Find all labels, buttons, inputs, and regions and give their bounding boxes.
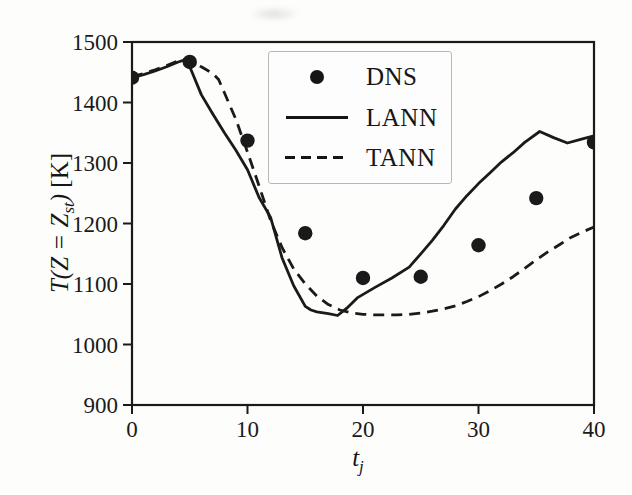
y-tick-label: 1500 bbox=[72, 30, 118, 55]
x-axis-title: tj bbox=[352, 445, 364, 475]
y-axis-title: T(Z = Zst) [K] bbox=[47, 153, 77, 293]
dns-point bbox=[414, 270, 428, 284]
legend-swatch-box bbox=[284, 70, 350, 84]
dns-point bbox=[471, 238, 485, 252]
legend-item-dns: DNS bbox=[284, 58, 451, 96]
y-tick-label: 1000 bbox=[72, 333, 118, 358]
figure: 900100011001200130014001500010203040 T(Z… bbox=[0, 0, 632, 495]
legend: DNSLANNTANN bbox=[268, 51, 452, 184]
dns-point bbox=[529, 191, 543, 205]
y-tick-label: 1200 bbox=[72, 212, 118, 237]
dns-point bbox=[356, 271, 370, 285]
x-tick-label: 10 bbox=[236, 417, 259, 442]
legend-swatch-box bbox=[284, 116, 350, 119]
dns-point bbox=[298, 226, 312, 240]
legend-label: TANN bbox=[366, 144, 435, 172]
legend-swatch-box bbox=[284, 156, 350, 159]
y-tick-label: 1400 bbox=[72, 91, 118, 116]
x-tick-label: 40 bbox=[583, 417, 606, 442]
y-tick-label: 1100 bbox=[73, 272, 118, 297]
x-tick-label: 20 bbox=[352, 417, 375, 442]
legend-item-lann: LANN bbox=[284, 99, 451, 137]
legend-item-tann: TANN bbox=[284, 139, 451, 177]
legend-label: DNS bbox=[366, 63, 418, 91]
x-tick-label: 30 bbox=[467, 417, 490, 442]
y-tick-label: 1300 bbox=[72, 151, 118, 176]
dot-marker-swatch bbox=[310, 70, 324, 84]
dashed-line-swatch bbox=[285, 156, 349, 159]
solid-line-swatch bbox=[286, 116, 348, 119]
x-tick-label: 0 bbox=[126, 417, 138, 442]
dns-point bbox=[240, 133, 254, 147]
y-tick-label: 900 bbox=[84, 393, 119, 418]
legend-label: LANN bbox=[366, 104, 437, 132]
